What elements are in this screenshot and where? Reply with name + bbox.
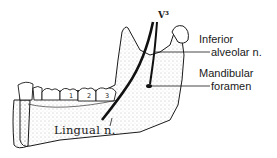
tooth-number-3: 3 [105,92,109,100]
label-lingual-nerve: Lingual n. [54,124,116,136]
label-mandibular-foramen-line1: Mandibular [199,67,253,79]
mandible-illustration [0,0,277,158]
label-mandibular-foramen-line2: foramen [211,80,251,92]
label-inferior-alveolar-line2: alveolar n. [211,46,262,58]
tooth-number-2: 2 [87,92,91,100]
label-inferior-alveolar-line1: Inferior [199,33,233,45]
symphysis [13,100,30,148]
label-v3: V³ [158,9,169,21]
mandible-diagram: V³ Inferior alveolar n. Mandibular foram… [0,0,277,158]
tooth-number-1: 1 [69,92,73,100]
